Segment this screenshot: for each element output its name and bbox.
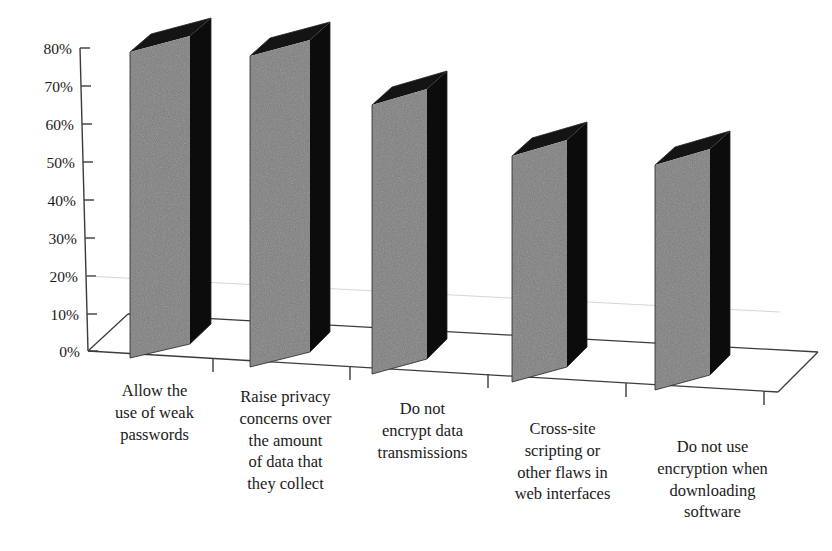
category-label-4: Cross-site scripting or other flaws in w… [490, 418, 635, 505]
bar-3-side [427, 71, 447, 359]
y-tick-label-10: 10% [51, 306, 80, 323]
floor-left-edge [88, 314, 128, 351]
bar-column-2 [250, 22, 330, 367]
y-tick-label-20: 20% [50, 268, 79, 285]
bar-column-1 [130, 18, 211, 358]
y-axis: 80% 70% 60% 50% 40% 30% 20% 10% 0% [44, 40, 98, 360]
bar-4-front [512, 140, 567, 382]
bar-column-4 [512, 122, 587, 382]
bar-4-side [567, 122, 587, 367]
y-tick-label-30: 30% [49, 230, 78, 247]
bar-3-front [372, 89, 427, 374]
y-tick-label-80: 80% [44, 40, 73, 57]
category-label-1: Allow the use of weak passwords [92, 380, 217, 445]
bar-column-3 [372, 71, 447, 374]
bar-2-side [310, 22, 330, 352]
bar-1-side [190, 18, 211, 344]
category-label-3: Do not encrypt data transmissions [355, 398, 490, 463]
category-label-2: Raise privacy concerns over the amount o… [218, 386, 353, 495]
chart-container: 80% 70% 60% 50% 40% 30% 20% 10% 0% [0, 0, 832, 551]
y-tick-label-50: 50% [47, 154, 76, 171]
y-tick-label-0: 0% [59, 343, 80, 360]
y-tick-label-40: 40% [48, 192, 77, 209]
y-tick-label-60: 60% [46, 116, 75, 133]
bar-column-5 [655, 131, 730, 390]
floor-right-edge [778, 352, 818, 392]
bar-1-front [130, 36, 190, 358]
bar-5-side [710, 131, 730, 375]
bar-5-front [655, 149, 710, 390]
bar-2-front [250, 40, 310, 367]
category-label-5: Do not use encryption when downloading s… [630, 436, 795, 523]
y-tick-label-70: 70% [45, 78, 74, 95]
